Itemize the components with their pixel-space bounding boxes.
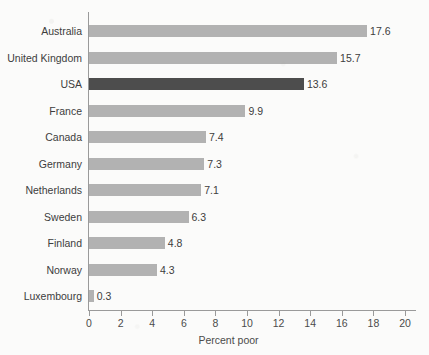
bar	[89, 290, 94, 302]
bar-value-label: 7.1	[204, 184, 219, 196]
bar-row: Canada7.4	[0, 124, 429, 151]
x-tick-mark	[247, 311, 248, 316]
x-tick-mark	[373, 311, 374, 316]
bar	[89, 52, 337, 64]
bar	[89, 264, 157, 276]
bar	[89, 131, 206, 143]
bar-value-label: 17.6	[370, 25, 390, 37]
category-label: Finland	[48, 237, 82, 249]
bar-row: Luxembourg0.3	[0, 283, 429, 310]
bar-value-label: 15.7	[340, 52, 360, 64]
category-label: United Kingdom	[7, 52, 82, 64]
bar-row: United Kingdom15.7	[0, 45, 429, 72]
bar-value-label: 7.3	[207, 158, 222, 170]
category-label: Canada	[45, 131, 82, 143]
x-tick-mark	[405, 311, 406, 316]
bar-value-label: 7.4	[209, 131, 224, 143]
x-axis-line	[88, 310, 416, 311]
x-tick-label: 0	[86, 317, 92, 329]
bar	[89, 211, 189, 223]
x-tick-label: 18	[368, 317, 380, 329]
bar	[89, 78, 304, 90]
bar-row: Norway4.3	[0, 257, 429, 284]
bar-row: Netherlands7.1	[0, 177, 429, 204]
bar-row: France9.9	[0, 98, 429, 125]
x-tick-label: 20	[399, 317, 411, 329]
x-tick-mark	[152, 311, 153, 316]
x-tick-mark	[215, 311, 216, 316]
bar-row: Germany7.3	[0, 151, 429, 178]
x-tick-mark	[279, 311, 280, 316]
x-tick-label: 2	[118, 317, 124, 329]
bar-row: Sweden6.3	[0, 204, 429, 231]
x-tick-mark	[342, 311, 343, 316]
category-label: France	[49, 105, 82, 117]
bar-row: Finland4.8	[0, 230, 429, 257]
category-label: Germany	[39, 158, 82, 170]
x-tick-label: 8	[212, 317, 218, 329]
plot-area: Australia17.6United Kingdom15.7USA13.6Fr…	[0, 0, 429, 355]
x-axis-title: Percent poor	[0, 334, 429, 346]
bar	[89, 158, 204, 170]
bar-value-label: 4.3	[160, 264, 175, 276]
x-tick-label: 12	[273, 317, 285, 329]
bar-value-label: 0.3	[97, 290, 112, 302]
bar-value-label: 6.3	[192, 211, 207, 223]
bar-row: Australia17.6	[0, 18, 429, 45]
category-label: Norway	[46, 264, 82, 276]
bar	[89, 237, 165, 249]
category-label: USA	[60, 78, 82, 90]
category-label: Australia	[41, 25, 82, 37]
x-tick-label: 6	[181, 317, 187, 329]
x-tick-mark	[310, 311, 311, 316]
bar-value-label: 4.8	[168, 237, 183, 249]
x-tick-label: 10	[241, 317, 253, 329]
x-tick-label: 14	[304, 317, 316, 329]
bar-row: USA13.6	[0, 71, 429, 98]
x-tick-mark	[121, 311, 122, 316]
x-tick-mark	[184, 311, 185, 316]
bar-value-label: 13.6	[307, 78, 327, 90]
x-tick-label: 4	[149, 317, 155, 329]
x-tick-label: 16	[336, 317, 348, 329]
bar	[89, 184, 201, 196]
bar	[89, 25, 367, 37]
category-label: Netherlands	[25, 184, 82, 196]
x-axis-title-text: Percent poor	[198, 334, 258, 346]
x-tick-mark	[89, 311, 90, 316]
bar-value-label: 9.9	[248, 105, 263, 117]
category-label: Luxembourg	[24, 290, 82, 302]
bar-chart: Australia17.6United Kingdom15.7USA13.6Fr…	[0, 0, 429, 355]
category-label: Sweden	[44, 211, 82, 223]
bar	[89, 105, 245, 117]
